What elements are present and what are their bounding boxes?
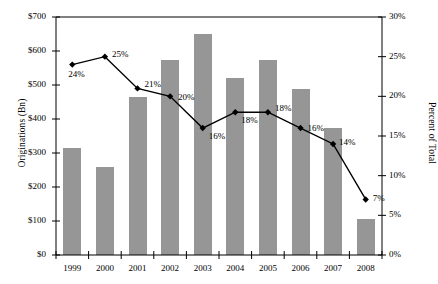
line-marker-diamond: [363, 196, 369, 202]
line-path: [72, 57, 365, 200]
axis-lines: [56, 17, 382, 255]
plot-area-svg: [0, 0, 438, 284]
line-marker-diamond: [297, 125, 303, 131]
line-marker-diamond: [265, 109, 271, 115]
chart-container: Originations (Bn) Percent of Total $0$10…: [0, 0, 438, 284]
line-marker-diamond: [232, 109, 238, 115]
line-marker-diamond: [69, 61, 75, 67]
line-marker-diamond: [330, 141, 336, 147]
